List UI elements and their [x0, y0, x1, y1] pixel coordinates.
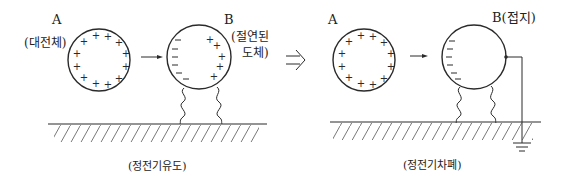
svg-text:+: + — [73, 48, 81, 59]
svg-text:+: + — [80, 72, 88, 83]
svg-text:+: + — [122, 61, 130, 72]
positive-charges-right: ++++ ++ ++ ++++ — [338, 30, 395, 90]
svg-text:+: + — [345, 36, 353, 47]
svg-text:+: + — [80, 36, 88, 47]
svg-text:+: + — [380, 37, 388, 48]
svg-text:+: + — [122, 48, 130, 59]
insulating-supports — [180, 87, 222, 124]
sphere-b-grounded — [442, 25, 508, 89]
svg-text:+: + — [369, 31, 377, 42]
ground-surface-left — [48, 124, 267, 142]
svg-text:+: + — [357, 78, 365, 89]
svg-text:+: + — [380, 73, 388, 84]
positive-charges: ++++ ++ ++ ++++ — [73, 30, 130, 90]
svg-text:+: + — [115, 37, 123, 48]
sphere-a-charged-body-right: ++++ ++ ++ ++++ — [333, 29, 395, 91]
label-charged-body: (대전체) — [24, 36, 66, 50]
electrostatic-diagram: ++++ ++ ++ ++++ +++ ++ — [0, 0, 569, 181]
svg-text:+: + — [338, 61, 346, 72]
earth-ground-icon — [513, 143, 531, 151]
ground-surface-right — [330, 122, 541, 140]
label-sphere-a-right: A — [328, 13, 337, 27]
svg-text:+: + — [92, 78, 100, 89]
svg-text:+: + — [387, 61, 395, 72]
right-panel-shielding: ++++ ++ ++ ++++ — [330, 25, 541, 151]
svg-text:+: + — [213, 40, 221, 51]
svg-text:+: + — [92, 30, 100, 41]
svg-text:+: + — [338, 48, 346, 59]
svg-text:+: + — [345, 72, 353, 83]
sphere-a-charged-body: ++++ ++ ++ ++++ — [68, 29, 130, 91]
sphere-b-insulated-conductor: +++ ++ — [167, 25, 231, 89]
caption-shielding: (정전기차폐) — [403, 156, 462, 172]
positive-charges-far-side: +++ ++ — [206, 34, 226, 82]
label-sphere-b: B — [224, 13, 234, 27]
label-sphere-a: A — [52, 13, 61, 27]
caption-induction: (정전기유도) — [128, 157, 187, 173]
insulating-supports-right — [456, 86, 496, 123]
label-sphere-b-grounded: B(접지) — [492, 11, 536, 25]
svg-text:+: + — [73, 61, 81, 72]
svg-text:+: + — [369, 79, 377, 90]
negative-charges-right — [446, 41, 461, 79]
svg-text:+: + — [104, 79, 112, 90]
svg-text:+: + — [115, 73, 123, 84]
arrow-a-to-b-right — [410, 54, 428, 58]
label-insulated-line2: 도체) — [242, 46, 269, 60]
transition-arrow-icon — [286, 50, 305, 70]
svg-text:+: + — [387, 48, 395, 59]
arrow-a-to-b — [141, 55, 163, 59]
label-insulated-line1: (절연된 — [231, 30, 269, 44]
svg-text:+: + — [357, 30, 365, 41]
negative-charges — [172, 40, 189, 79]
svg-text:+: + — [210, 71, 218, 82]
svg-text:+: + — [104, 31, 112, 42]
